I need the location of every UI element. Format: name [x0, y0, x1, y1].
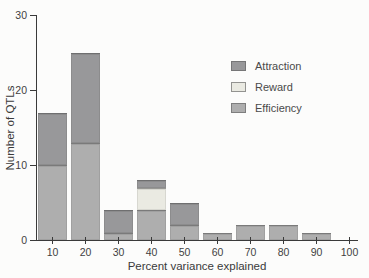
qtl-variance-stacked-bar-chart: 1020304050607080901000102030 Percent var… [0, 0, 369, 278]
x-tick-label-100: 100 [335, 246, 365, 259]
x-tick-label-10: 10 [38, 246, 68, 259]
bar-segment-efficiency-40 [137, 210, 166, 240]
y-tick-label-0: 0 [4, 234, 27, 247]
legend-swatch-efficiency-icon [231, 103, 246, 113]
legend-label-attraction: Attraction [255, 60, 301, 72]
legend: AttractionRewardEfficiency [231, 55, 302, 118]
y-tick-20 [30, 90, 36, 91]
legend-swatch-reward-icon [231, 82, 246, 92]
y-tick-10 [30, 165, 36, 166]
bar-segment-efficiency-20 [71, 143, 100, 240]
legend-label-efficiency: Efficiency [255, 102, 302, 114]
legend-item-reward: Reward [231, 76, 302, 97]
y-tick-0 [30, 240, 36, 241]
x-axis-title: Percent variance explained [128, 260, 267, 272]
y-axis-line [36, 15, 37, 241]
bar-segment-efficiency-10 [38, 165, 67, 240]
y-axis-title: Number of QTLs [4, 86, 16, 171]
x-tick-label-30: 30 [104, 246, 134, 259]
legend-swatch-attraction-icon [231, 61, 246, 71]
bar-segment-attraction-10 [38, 113, 67, 165]
x-tick-label-90: 90 [302, 246, 332, 259]
x-tick-label-20: 20 [71, 246, 101, 259]
x-tick-80 [283, 237, 284, 244]
x-tick-label-70: 70 [236, 246, 266, 259]
bar-segment-reward-40 [137, 188, 166, 210]
x-tick-label-50: 50 [170, 246, 200, 259]
bar-segment-attraction-20 [71, 53, 100, 143]
bar-segment-attraction-30 [104, 210, 133, 232]
x-tick-60 [217, 237, 218, 244]
x-tick-20 [85, 237, 86, 244]
legend-label-reward: Reward [255, 81, 293, 93]
x-tick-40 [151, 237, 152, 244]
x-tick-label-40: 40 [137, 246, 167, 259]
bar-segment-attraction-40 [137, 180, 166, 187]
x-tick-90 [316, 237, 317, 244]
x-tick-label-80: 80 [269, 246, 299, 259]
x-tick-30 [118, 237, 119, 244]
legend-item-attraction: Attraction [231, 55, 302, 76]
bar-segment-attraction-50 [170, 203, 199, 225]
x-tick-100 [349, 237, 350, 244]
x-tick-50 [184, 237, 185, 244]
x-tick-label-60: 60 [203, 246, 233, 259]
legend-item-efficiency: Efficiency [231, 97, 302, 118]
x-tick-10 [52, 237, 53, 244]
y-tick-30 [30, 15, 36, 16]
x-tick-70 [250, 237, 251, 244]
y-tick-label-30: 30 [4, 9, 27, 22]
